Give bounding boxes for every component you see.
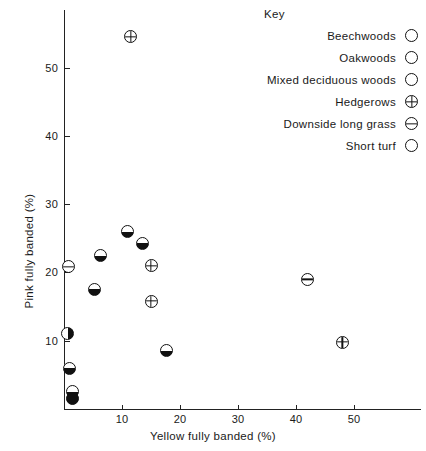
legend-item-beechwoods[interactable]: Beechwoods [232,29,418,42]
x-tick-mark [238,405,239,410]
x-axis-line [64,409,421,410]
legend-item-mixed-deciduous-woods[interactable]: Mixed deciduous woods [232,73,418,86]
x-tick-mark [180,405,181,410]
data-point-crossed-circle [336,336,349,349]
data-point-horizontal-line-circle [301,273,314,286]
open-circle-icon [405,139,418,152]
y-tick-mark [65,341,70,342]
data-point-bottom-half-filled-circle [136,237,149,250]
x-tick-mark [122,405,123,410]
legend-item-label: Hedgerows [335,96,396,108]
bottom-half-filled-circle-icon [405,73,418,86]
legend-item-label: Downside long grass [284,118,396,130]
filled-circle-icon [405,29,418,42]
x-tick-mark [296,405,297,410]
x-tick-label: 50 [348,413,361,425]
legend-item-label: Short turf [346,140,396,152]
legend-item-oakwoods[interactable]: Oakwoods [232,51,418,64]
y-tick-label: 50 [32,62,58,74]
y-tick-label: 10 [32,335,58,347]
x-tick-label: 10 [116,413,129,425]
x-tick-label: 20 [174,413,187,425]
data-point-bottom-half-filled-circle [63,362,76,375]
y-tick-label: 40 [32,130,58,142]
data-point-crossed-circle [145,295,158,308]
legend-item-downside-long-grass[interactable]: Downside long grass [232,117,418,130]
legend: Key BeechwoodsOakwoodsMixed deciduous wo… [232,8,418,152]
horizontal-line-circle-icon [405,117,418,130]
data-point-bottom-half-filled-circle [66,385,79,398]
data-point-bottom-half-filled-circle [160,344,173,357]
legend-item-label: Beechwoods [327,30,396,42]
legend-item-hedgerows[interactable]: Hedgerows [232,95,418,108]
x-tick-label: 30 [232,413,245,425]
legend-item-label: Oakwoods [339,52,396,64]
x-axis-title: Yellow fully banded (%) [150,430,276,442]
y-axis-line [64,10,65,410]
legend-rows: BeechwoodsOakwoodsMixed deciduous woodsH… [232,29,418,152]
x-tick-mark [354,405,355,410]
y-tick-label: 30 [32,198,58,210]
data-point-horizontal-line-circle [62,260,75,273]
data-point-bottom-half-filled-circle [94,249,107,262]
crossed-circle-icon [405,95,418,108]
legend-title: Key [264,8,418,20]
legend-item-short-turf[interactable]: Short turf [232,139,418,152]
legend-item-label: Mixed deciduous woods [267,74,396,86]
y-tick-mark [65,136,70,137]
data-point-right-half-filled-circle [61,327,74,340]
data-point-bottom-half-filled-circle [121,225,134,238]
data-point-bottom-half-filled-circle [88,283,101,296]
data-point-crossed-circle [124,30,137,43]
y-tick-label: 20 [32,266,58,278]
x-tick-label: 40 [290,413,303,425]
y-tick-mark [65,68,70,69]
scatter-plot: 1020304050 1020304050 Yellow fully bande… [0,0,426,451]
data-point-crossed-circle [145,259,158,272]
right-half-filled-circle-icon [405,51,418,64]
y-tick-mark [65,204,70,205]
y-axis-title: Pink fully banded (%) [23,176,35,326]
